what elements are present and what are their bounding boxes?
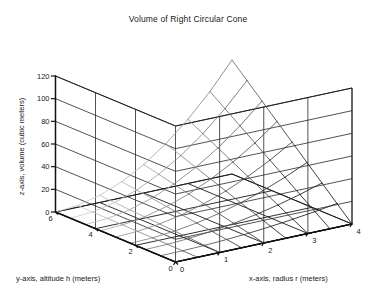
svg-text:100: 100 <box>37 94 50 103</box>
svg-text:6: 6 <box>48 214 52 223</box>
y-axis-label: y-axis, altitude h (meters) <box>16 274 100 283</box>
z-axis-label: z-axis, volume (cubic meters) <box>17 82 26 212</box>
svg-text:20: 20 <box>41 185 49 194</box>
svg-text:0: 0 <box>168 264 172 273</box>
svg-text:2: 2 <box>268 246 272 255</box>
axis-tick-labels: 020406080100120024601234 <box>37 72 361 274</box>
x-axis-label: x-axis, radius r (meters) <box>249 274 328 283</box>
figure-3d-surface-plot: Volume of Right Circular Cone 0204060801… <box>0 0 376 302</box>
svg-text:60: 60 <box>41 140 49 149</box>
svg-text:4: 4 <box>356 227 360 236</box>
svg-text:1: 1 <box>224 255 228 264</box>
svg-text:40: 40 <box>41 162 49 171</box>
axis-spines <box>51 76 352 265</box>
svg-text:120: 120 <box>37 72 50 81</box>
svg-text:80: 80 <box>41 117 49 126</box>
svg-text:2: 2 <box>128 247 132 256</box>
svg-text:0: 0 <box>180 265 184 274</box>
svg-text:3: 3 <box>312 236 316 245</box>
svg-text:4: 4 <box>88 230 92 239</box>
surface-plot-canvas: 020406080100120024601234 <box>0 0 376 302</box>
